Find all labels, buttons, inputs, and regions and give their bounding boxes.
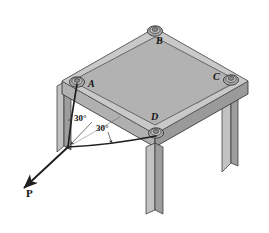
figure-drawing (0, 0, 269, 233)
leader-angle-1-pointer (70, 122, 92, 145)
label-force-p: P (26, 188, 33, 199)
label-angle-1: 30° (74, 114, 87, 123)
ring-c (223, 75, 238, 85)
statics-figure: A B C D 30° 30° P (0, 0, 269, 233)
label-point-d: D (151, 112, 158, 122)
label-point-b: B (156, 36, 163, 46)
leader-angle-2-pointer (108, 132, 112, 144)
label-angle-2: 30° (96, 124, 109, 133)
cord-from-d (68, 136, 156, 147)
leg-front (146, 143, 163, 214)
force-arrow-p (24, 147, 68, 188)
label-point-c: C (213, 72, 220, 82)
label-point-a: A (88, 79, 95, 89)
